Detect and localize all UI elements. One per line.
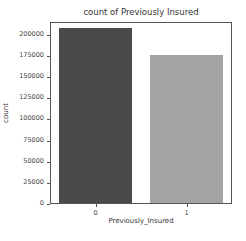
y-tick-label: 25000	[23, 178, 44, 186]
y-tick-label: 50000	[23, 157, 44, 165]
x-tick-mark	[96, 204, 97, 207]
x-tick-label: 1	[177, 209, 197, 217]
y-tick-label: 200000	[19, 30, 44, 38]
x-tick-mark	[187, 204, 188, 207]
y-axis-label: count	[2, 103, 10, 123]
y-tick-label: 150000	[19, 72, 44, 80]
plot-area	[50, 22, 232, 204]
x-tick-label: 0	[86, 209, 106, 217]
y-tick-label: 0	[40, 199, 44, 207]
chart-title: count of Previously Insured	[50, 7, 232, 17]
y-tick-label: 125000	[19, 93, 44, 101]
y-tick-label: 100000	[19, 114, 44, 122]
y-tick-mark	[47, 204, 50, 205]
y-tick-label: 75000	[23, 136, 44, 144]
x-axis-label: Previously_Insured	[50, 217, 232, 225]
bar-0	[59, 28, 132, 203]
y-tick-label: 175000	[19, 51, 44, 59]
bar-1	[150, 55, 223, 203]
